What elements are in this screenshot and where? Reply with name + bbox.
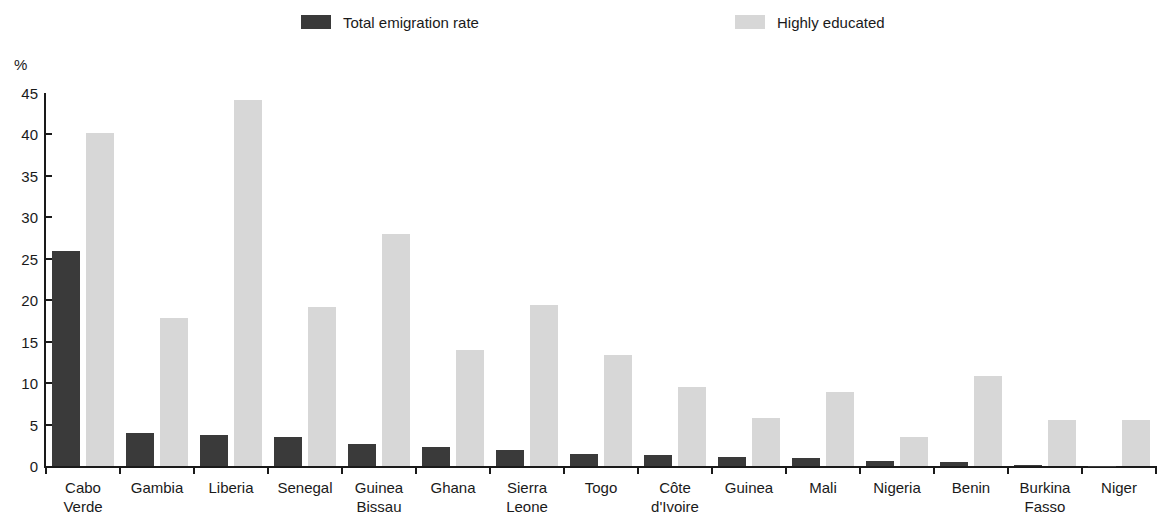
x-axis-tick-mark — [563, 466, 565, 474]
bar-group — [1008, 93, 1082, 466]
bar-total-emigration-rate — [348, 444, 376, 466]
x-axis-tick-cell — [934, 466, 1008, 475]
x-axis-tick-cell — [194, 466, 268, 475]
x-axis-tick-mark — [859, 466, 861, 474]
bar-total-emigration-rate — [126, 433, 154, 466]
x-axis-tick-cell — [490, 466, 564, 475]
y-axis-tick-labels: 454035302520151050 — [0, 93, 38, 473]
y-axis-tick-label: 5 — [4, 418, 38, 433]
y-axis-unit-label: % — [14, 57, 27, 72]
bar-total-emigration-rate — [496, 450, 524, 466]
x-axis-category-label: Cabo Verde — [46, 478, 120, 519]
bar-group — [1082, 93, 1156, 466]
x-axis-tick-mark — [785, 466, 787, 474]
x-axis-tick-cell — [268, 466, 342, 475]
x-axis-category-label: Benin — [934, 478, 1008, 519]
bar-chart-plot: % 454035302520151050 Cabo VerdeGambiaLib… — [0, 46, 1164, 519]
x-axis-category-label: Guinea Bissau — [342, 478, 416, 519]
x-axis-tick-mark — [119, 466, 121, 474]
bar-highly-educated — [382, 234, 410, 466]
y-axis-tick-label: 45 — [4, 86, 38, 101]
x-axis-tick-mark — [267, 466, 269, 474]
x-axis-category-label: Burkina Fasso — [1008, 478, 1082, 519]
x-axis-category-label: Togo — [564, 478, 638, 519]
bar-group — [490, 93, 564, 466]
bar-group — [194, 93, 268, 466]
x-axis-tick-mark — [933, 466, 935, 474]
x-axis-category-label: Sierra Leone — [490, 478, 564, 519]
bar-group — [120, 93, 194, 466]
x-axis-tick-mark — [1155, 466, 1157, 474]
y-axis-tick-label: 0 — [4, 459, 38, 474]
bar-total-emigration-rate — [792, 458, 820, 466]
x-axis-tick-cell — [416, 466, 490, 475]
y-axis-tick-label: 30 — [4, 210, 38, 225]
x-axis-tick-mark — [711, 466, 713, 474]
bar-highly-educated — [1122, 420, 1150, 466]
bar-highly-educated — [530, 305, 558, 466]
bar-group — [786, 93, 860, 466]
x-axis-tick-mark — [45, 466, 47, 474]
bar-total-emigration-rate — [718, 457, 746, 466]
bar-group — [268, 93, 342, 466]
y-axis-tick-label: 35 — [4, 169, 38, 184]
bar-highly-educated — [826, 392, 854, 466]
x-axis-tick-mark — [1007, 466, 1009, 474]
bar-highly-educated — [86, 133, 114, 466]
x-axis-category-label: Niger — [1082, 478, 1156, 519]
y-axis-tick-label: 15 — [4, 335, 38, 350]
bar-group — [46, 93, 120, 466]
bar-total-emigration-rate — [644, 455, 672, 466]
bar-highly-educated — [678, 387, 706, 466]
x-axis-category-label: Senegal — [268, 478, 342, 519]
legend-item-highly-educated: Highly educated — [735, 12, 885, 32]
x-axis-category-label: Mali — [786, 478, 860, 519]
y-axis-tick-label: 40 — [4, 127, 38, 142]
x-axis-category-label: Gambia — [120, 478, 194, 519]
x-axis-tick-mark — [637, 466, 639, 474]
bar-highly-educated — [234, 100, 262, 466]
bar-group — [860, 93, 934, 466]
x-axis-category-label: Guinea — [712, 478, 786, 519]
legend-swatch-total-emigration-rate — [301, 15, 331, 29]
bar-total-emigration-rate — [570, 454, 598, 466]
x-axis-tick-cell — [638, 466, 712, 475]
x-axis-tick-cell — [342, 466, 416, 475]
bar-highly-educated — [160, 318, 188, 466]
bar-group — [934, 93, 1008, 466]
bar-group — [638, 93, 712, 466]
x-axis-tick-cell — [786, 466, 860, 475]
x-axis-tick-mark — [193, 466, 195, 474]
x-axis-category-label: Côte d'Ivoire — [638, 478, 712, 519]
x-axis-category-label: Liberia — [194, 478, 268, 519]
y-axis-tick-label: 25 — [4, 252, 38, 267]
legend-swatch-highly-educated — [735, 15, 765, 29]
bar-highly-educated — [308, 307, 336, 466]
x-axis-category-labels: Cabo VerdeGambiaLiberiaSenegalGuinea Bis… — [46, 478, 1156, 519]
bar-group — [416, 93, 490, 466]
bar-highly-educated — [604, 355, 632, 466]
x-axis-tick-cell — [712, 466, 786, 475]
x-axis-tick-mark — [341, 466, 343, 474]
bar-total-emigration-rate — [274, 437, 302, 466]
legend-label-highly-educated: Highly educated — [777, 15, 885, 30]
bar-total-emigration-rate — [200, 435, 228, 466]
bar-group — [342, 93, 416, 466]
x-axis-tick-mark — [489, 466, 491, 474]
x-axis-tick-mark — [1081, 466, 1083, 474]
bar-groups — [46, 93, 1156, 466]
chart-legend: Total emigration rate Highly educated — [0, 0, 1164, 46]
bar-total-emigration-rate — [422, 447, 450, 466]
x-axis-category-label: Ghana — [416, 478, 490, 519]
bar-highly-educated — [974, 376, 1002, 466]
legend-label-total-emigration-rate: Total emigration rate — [343, 15, 479, 30]
x-axis-tick-cell — [120, 466, 194, 475]
bar-highly-educated — [752, 418, 780, 466]
x-axis-tick-cell — [46, 466, 120, 475]
x-axis-tick-cell — [564, 466, 638, 475]
bar-highly-educated — [456, 350, 484, 466]
x-axis-tick-mark — [415, 466, 417, 474]
x-axis-ticks — [46, 466, 1156, 475]
y-axis-tick-label: 10 — [4, 376, 38, 391]
bar-group — [564, 93, 638, 466]
